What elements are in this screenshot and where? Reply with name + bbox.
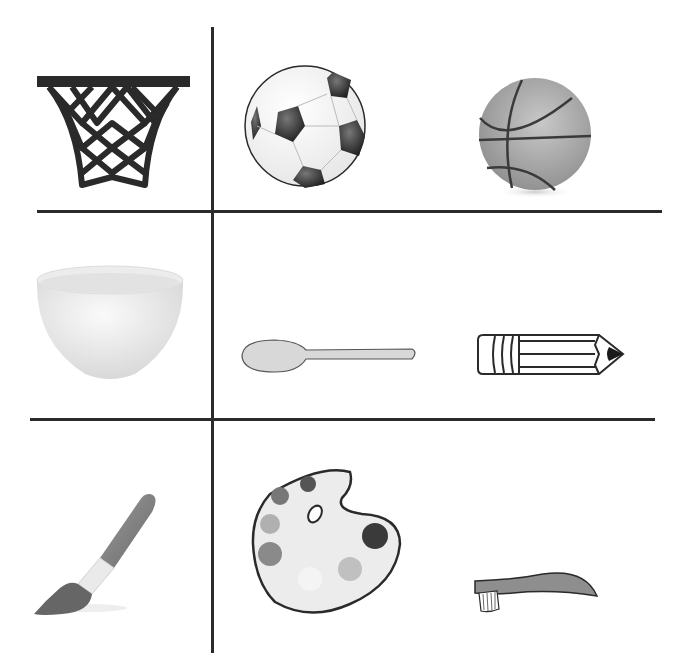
horizontal-divider-1: [37, 210, 662, 213]
pencil-icon: pencil: [477, 333, 625, 376]
soccer-ball-icon: soccer ball: [243, 64, 367, 188]
palette-icon: paint palette: [250, 464, 402, 620]
toothbrush-icon: toothbrush: [473, 571, 605, 615]
vertical-divider: [211, 27, 214, 653]
bowl-icon: bowl: [35, 262, 185, 382]
basketball-hoop-icon: basketball hoop: [37, 73, 190, 193]
paintbrush-icon: paintbrush: [32, 490, 162, 618]
basketball-icon: basketball: [477, 78, 593, 200]
horizontal-divider-2: [30, 418, 655, 421]
spoon-icon: spoon: [240, 338, 418, 374]
